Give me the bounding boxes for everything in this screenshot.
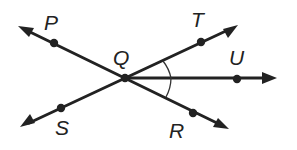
angle-mark-UQR [166, 78, 171, 97]
arrowhead-T-icon [223, 25, 238, 38]
arrowhead-R-icon [213, 118, 229, 129]
label-T: T [191, 8, 206, 31]
arrowhead-P-icon [18, 26, 34, 37]
point-R [189, 109, 197, 117]
ray-QU [125, 72, 277, 84]
label-R: R [169, 119, 184, 142]
angle-mark-TQU [163, 61, 171, 78]
point-S [57, 104, 65, 112]
point-U [233, 75, 241, 83]
label-S: S [55, 116, 69, 139]
point-Q [121, 74, 129, 82]
point-P [50, 39, 58, 47]
label-Q: Q [113, 46, 129, 69]
arrowhead-U-icon [262, 72, 277, 84]
geometry-diagram: P Q T U S R [0, 0, 297, 150]
label-U: U [229, 46, 245, 69]
arrowhead-S-icon [20, 114, 35, 127]
point-T [197, 38, 205, 46]
label-P: P [44, 11, 58, 34]
